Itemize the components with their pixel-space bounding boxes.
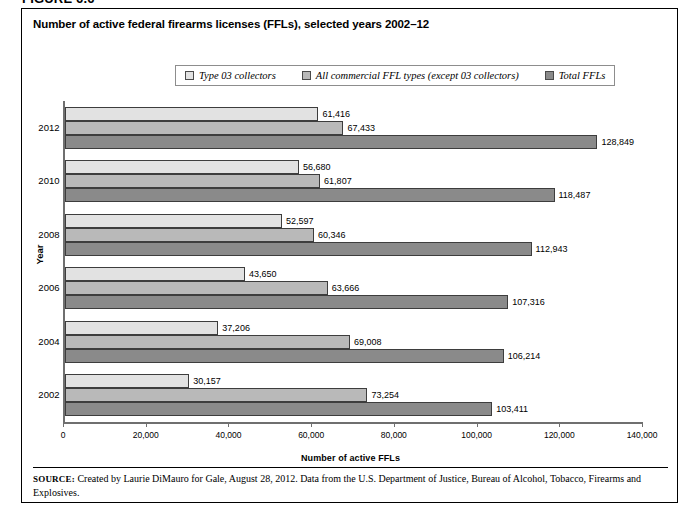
y-axis-category-label: 2012 [38,122,59,133]
bar[interactable]: 112,943 [65,242,532,256]
bar-value-label: 56,680 [303,162,331,172]
bar-value-label: 61,807 [324,176,352,186]
bar[interactable]: 106,214 [65,349,504,363]
source-divider [33,467,668,468]
bar-value-label: 128,849 [601,137,634,147]
x-axis-tick-label: 100,000 [461,430,492,440]
x-axis-tick-label: 0 [61,430,66,440]
bar[interactable]: 30,157 [65,374,190,388]
y-axis-category-label: 2010 [38,175,59,186]
y-axis-category-label: 2002 [38,389,59,400]
bar[interactable]: 63,666 [65,281,328,295]
bar[interactable]: 118,487 [65,188,555,202]
bar-value-label: 30,157 [193,376,221,386]
year-group: 201056,68061,807118,487 [65,155,644,209]
x-axis-title: Number of active FFLs [22,453,679,463]
bar-value-label: 69,008 [354,337,382,347]
source-text: Created by Laurie DiMauro for Gale, Augu… [33,473,641,498]
x-axis-tick [559,422,560,427]
bar[interactable]: 69,008 [65,335,350,349]
x-axis-tick-label: 120,000 [544,430,575,440]
y-axis-category-label: 2006 [38,282,59,293]
bar[interactable]: 37,206 [65,321,219,335]
year-group: 200852,59760,346112,943 [65,208,644,262]
bar-value-label: 107,316 [512,297,545,307]
x-axis-tick [642,422,643,427]
year-group: 200643,65063,666107,316 [65,262,644,316]
x-axis-tick-label: 140,000 [627,430,658,440]
x-axis-tick-label: 40,000 [215,430,241,440]
bar[interactable]: 56,680 [65,160,299,174]
bar-value-label: 112,943 [536,244,568,254]
bar-value-label: 118,487 [559,190,591,200]
bar-value-label: 37,206 [222,323,250,333]
bar[interactable]: 67,433 [65,121,344,135]
x-axis-tick [63,422,64,427]
bar[interactable]: 43,650 [65,267,246,281]
bar[interactable]: 52,597 [65,214,283,228]
figure-container: Number of active federal firearms licens… [21,8,678,503]
source-note: SOURCE: Created by Laurie DiMauro for Ga… [33,472,667,499]
bar[interactable]: 60,346 [65,228,315,242]
bar-value-label: 73,254 [371,390,399,400]
plot-wrapper: Year Number of active FFLs 020,00040,000… [22,9,679,504]
bar-value-label: 106,214 [508,351,541,361]
source-label: SOURCE: [33,474,75,484]
bar[interactable]: 107,316 [65,295,509,309]
x-axis-tick [228,422,229,427]
x-axis-tick-label: 20,000 [133,430,159,440]
bar-value-label: 103,411 [496,404,528,414]
bar-value-label: 43,650 [249,269,277,279]
x-axis-tick [311,422,312,427]
bar[interactable]: 61,807 [65,174,321,188]
bar-value-label: 63,666 [332,283,360,293]
x-axis-tick [394,422,395,427]
y-axis-category-label: 2004 [38,336,59,347]
plot-area: 020,00040,00060,00080,000100,000120,0001… [63,101,642,422]
year-group: 200230,15773,254103,411 [65,369,644,423]
year-group: 200437,20669,008106,214 [65,315,644,369]
bar[interactable]: 73,254 [65,388,368,402]
bar[interactable]: 61,416 [65,107,319,121]
figure-number: FIGURE 6.6 [22,0,95,6]
bar-value-label: 52,597 [286,216,314,226]
x-axis-tick [146,422,147,427]
year-group: 201261,41667,433128,849 [65,101,644,155]
bar-value-label: 61,416 [322,109,350,119]
bar-value-label: 60,346 [318,230,346,240]
y-axis-category-label: 2008 [38,229,59,240]
x-axis-tick-label: 80,000 [381,430,407,440]
bar[interactable]: 128,849 [65,135,598,149]
bar[interactable]: 103,411 [65,402,493,416]
x-axis-tick-label: 60,000 [298,430,324,440]
x-axis-line [63,422,642,424]
x-axis-tick [477,422,478,427]
bar-value-label: 67,433 [347,123,375,133]
